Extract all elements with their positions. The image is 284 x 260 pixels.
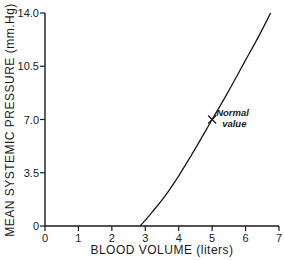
y-axis-label: MEAN SYSTEMIC PRESSURE (mm.Hg) — [3, 3, 17, 237]
x-tick-label: 1 — [75, 232, 81, 244]
pressure-volume-curve — [140, 13, 270, 226]
y-tick-label: 7.0 — [24, 114, 39, 126]
x-tick-label: 6 — [243, 232, 249, 244]
normal-value-annotation: Normalvalue — [208, 107, 249, 129]
x-axis: 01234567 — [42, 226, 282, 244]
y-tick-label: 0 — [33, 220, 39, 232]
annotation-text: value — [222, 118, 247, 129]
x-axis-label: BLOOD VOLUME (liters) — [90, 243, 233, 257]
chart-root: 03.57.010.514.0 01234567 MEAN SYSTEMIC P… — [0, 0, 284, 260]
x-tick-label: 0 — [42, 232, 48, 244]
y-tick-label: 3.5 — [24, 167, 39, 179]
y-tick-label: 10.5 — [18, 60, 39, 72]
y-axis: 03.57.010.514.0 — [18, 7, 45, 232]
x-tick-label: 7 — [276, 232, 282, 244]
y-tick-label: 14.0 — [18, 7, 39, 19]
annotation-text: Normal — [216, 107, 249, 118]
